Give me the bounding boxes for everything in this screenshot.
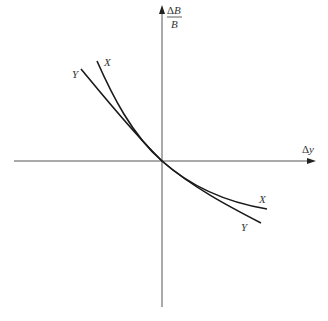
curve-x-path [97,61,267,209]
curve-y-label-top: Y [72,68,80,80]
curve-y-path [81,69,261,223]
diagram-canvas: Δy ΔB B X X Y Y [0,0,328,321]
curve-y-label-bottom: Y [241,221,249,233]
curve-x-label-top: X [103,56,112,68]
x-axis-arrow-icon [307,158,316,164]
curve-x-label-bottom: X [258,193,267,205]
x-axis-label: Δy [302,143,314,155]
y-axis-label-denominator: B [171,18,178,30]
curve-x: X X [97,56,267,209]
y-axis-label-numerator: ΔB [167,4,181,16]
y-axis-label: ΔB B [167,4,182,30]
y-axis: ΔB B [159,4,182,307]
x-axis: Δy [14,143,316,164]
curve-y: Y Y [72,68,261,233]
y-axis-arrow-icon [159,5,165,14]
